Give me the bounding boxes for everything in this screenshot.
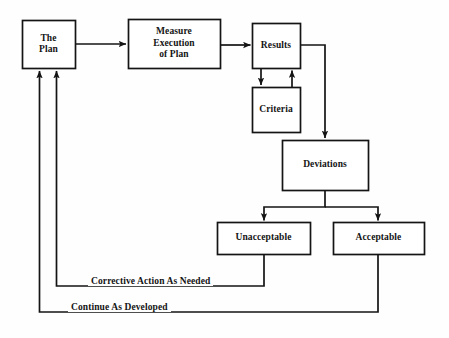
edge-label-continue-developed: Continue As Developed xyxy=(68,302,171,312)
node-box-the-plan[interactable] xyxy=(23,21,76,69)
flowchart-canvas: The Plan Measure Execution of Plan Resul… xyxy=(0,0,449,338)
edge-label-corrective-action: Corrective Action As Needed xyxy=(88,276,213,286)
edge-deviations-to-acceptable xyxy=(325,207,378,221)
edge-deviations-to-unacceptable xyxy=(264,191,325,221)
node-box-results[interactable] xyxy=(253,24,301,69)
edge-results-to-deviations xyxy=(301,45,326,138)
node-box-criteria[interactable] xyxy=(253,88,301,133)
node-box-deviations[interactable] xyxy=(283,141,369,191)
node-box-unacceptable[interactable] xyxy=(218,223,311,255)
flowchart-svg xyxy=(0,0,449,338)
node-box-acceptable[interactable] xyxy=(334,223,425,255)
node-box-measure[interactable] xyxy=(129,20,221,69)
